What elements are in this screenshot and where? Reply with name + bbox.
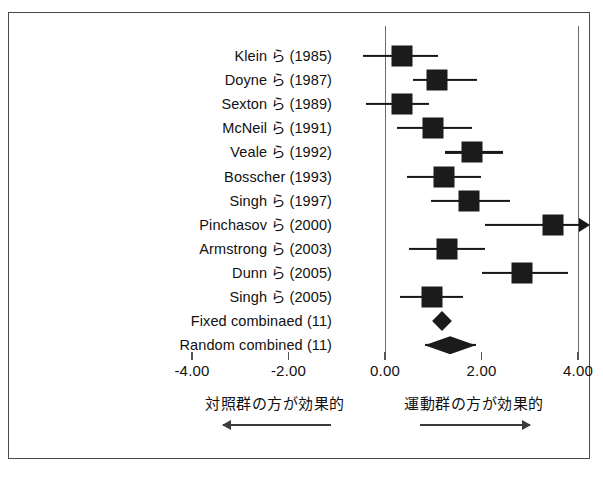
study-label-6: Singh ら (1997) (32, 193, 332, 208)
pooled-effect-diamond-fixed (432, 311, 452, 331)
study-label-4: Veale ら (1992) (32, 145, 332, 160)
x-tick-label-3: 2.00 (442, 362, 522, 379)
effect-marker-6 (459, 190, 480, 211)
ci-truncation-arrow-7 (579, 218, 590, 232)
pooled-effect-diamond-random (425, 336, 476, 354)
effect-marker-0 (391, 46, 412, 67)
left-direction-arrow (223, 424, 331, 426)
effect-marker-4 (461, 142, 482, 163)
right-direction-arrow (420, 424, 530, 426)
study-label-7: Pinchasov ら (2000) (32, 217, 332, 232)
effect-marker-1 (427, 70, 448, 91)
right-direction-label: 運動群の方が効果的 (404, 392, 544, 413)
upper-reference-line (578, 26, 579, 356)
x-tick-2 (384, 352, 385, 360)
effect-marker-9 (512, 262, 533, 283)
confidence-interval-7 (485, 224, 579, 226)
study-label-0: Klein ら (1985) (32, 49, 332, 64)
effect-marker-3 (423, 118, 444, 139)
x-tick-label-0: -4.00 (152, 362, 232, 379)
study-label-2: Sexton ら (1989) (32, 97, 332, 112)
x-tick-label-4: 4.00 (538, 362, 603, 379)
study-label-9: Dunn ら (2005) (32, 266, 332, 281)
zero-reference-line (385, 26, 386, 356)
x-tick-0 (191, 352, 192, 360)
forest-plot: Klein ら (1985)Doyne ら (1987)Sexton ら (19… (0, 0, 603, 479)
x-tick-label-1: -2.00 (249, 362, 329, 379)
study-label-5: Bosscher (1993) (32, 169, 332, 184)
effect-marker-7 (542, 214, 563, 235)
x-tick-3 (481, 352, 482, 360)
effect-marker-5 (433, 166, 454, 187)
study-label-3: McNeil ら (1991) (32, 121, 332, 136)
left-direction-label: 対照群の方が効果的 (205, 392, 345, 413)
study-label-1: Doyne ら (1987) (32, 73, 332, 88)
study-label-8: Armstrong ら (2003) (32, 242, 332, 257)
effect-marker-8 (436, 238, 457, 259)
study-label-11: Fixed combinaed (11) (32, 314, 332, 329)
study-label-10: Singh ら (2005) (32, 290, 332, 305)
x-tick-label-2: 0.00 (345, 362, 425, 379)
study-label-12: Random combined (11) (32, 338, 332, 353)
effect-marker-10 (421, 287, 442, 308)
x-tick-1 (288, 352, 289, 360)
x-tick-4 (577, 352, 578, 360)
effect-marker-2 (391, 94, 412, 115)
